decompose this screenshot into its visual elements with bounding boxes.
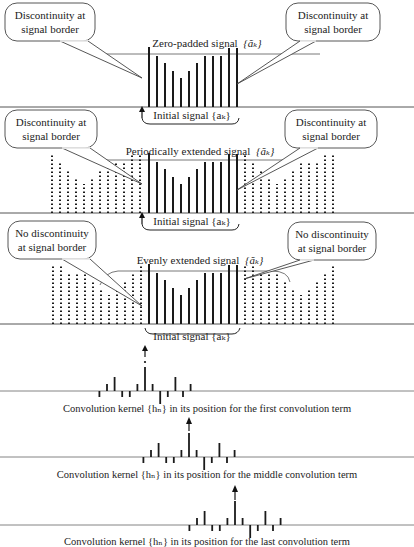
kernel-first: Convolution kernel {hₙ} in its position … <box>0 345 414 414</box>
kernel-middle: Convolution kernel {hₙ} in its position … <box>0 417 414 480</box>
callout-left: Discontinuity at signal border <box>5 110 142 184</box>
start-arrow <box>139 106 145 118</box>
start-arrow <box>139 212 145 224</box>
initial-signal-bars <box>149 153 237 213</box>
panel-periodic: Periodically extended signal {ãₖ} Discon… <box>0 110 414 230</box>
panel-zero-padded: Zero-padded signal {ãₖ} Discontinuity at… <box>0 3 414 124</box>
callout-right-line2: at signal border <box>298 242 367 254</box>
callout-left-line2: signal border <box>22 130 80 142</box>
callout-right-line1: Discontinuity at <box>298 9 369 21</box>
callout-left-line1: Discontinuity at <box>15 9 86 21</box>
kernel-taps <box>99 367 190 404</box>
kernel-taps <box>143 433 234 470</box>
callout-right: No discontinuity at signal border <box>244 222 376 279</box>
callout-right-line2: signal border <box>304 23 362 35</box>
initial-signal-bars <box>149 47 237 107</box>
bracket-label: Initial signal {aₖ} <box>153 215 231 227</box>
initial-signal-bars <box>149 264 237 324</box>
callout-left: No discontinuity at signal border <box>8 221 142 306</box>
kernel-caption: Convolution kernel {hₙ} in its position … <box>63 403 351 414</box>
callout-right-line1: No discontinuity <box>295 228 369 240</box>
kernel-last: Convolution kernel {hₙ} in its position … <box>0 485 414 547</box>
callout-left-line2: at signal border <box>18 241 87 253</box>
callout-left-line2: signal border <box>21 23 79 35</box>
callout-right-line2: signal border <box>302 130 360 142</box>
callout-left: Discontinuity at signal border <box>5 3 142 78</box>
panel-title: Zero-padded signal {ãₖ} <box>152 37 262 49</box>
callout-left-line1: No discontinuity <box>15 227 89 239</box>
bracket-label: Initial signal {aₖ} <box>153 330 231 342</box>
callout-left-line1: Discontinuity at <box>16 116 87 128</box>
panel-title: Evenly extended signal {ãₖ} <box>137 254 264 266</box>
kernel-arrow <box>186 417 192 431</box>
kernel-arrow <box>232 485 238 500</box>
kernel-arrow <box>142 345 148 363</box>
kernel-caption: Convolution kernel {hₙ} in its position … <box>57 469 357 480</box>
panel-even: Evenly extended signal {ãₖ} No discontin… <box>0 221 414 342</box>
kernel-caption: Convolution kernel {hₙ} in its position … <box>64 536 350 547</box>
bracket-label: Initial signal {aₖ} <box>153 109 231 121</box>
kernel-taps <box>189 501 280 538</box>
signal-extension-diagram: Zero-padded signal {ãₖ} Discontinuity at… <box>0 0 414 547</box>
callout-right-line1: Discontinuity at <box>296 116 367 128</box>
